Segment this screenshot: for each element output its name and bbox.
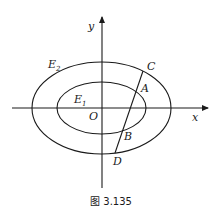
origin-label: O — [89, 110, 98, 123]
x-axis-label: x — [192, 111, 199, 124]
y-axis-label: y — [87, 20, 95, 33]
point-c-label: C — [147, 60, 156, 73]
label-e2: E2 — [47, 58, 61, 73]
label-e1: E1 — [73, 93, 87, 108]
point-a-label: A — [140, 82, 149, 95]
diagram-canvas: y x O E2 E1 C A B D 图 3.135 — [0, 0, 221, 214]
point-b-label: B — [123, 130, 132, 143]
point-d-label: D — [112, 155, 122, 168]
figure-caption: 图 3.135 — [90, 196, 132, 207]
